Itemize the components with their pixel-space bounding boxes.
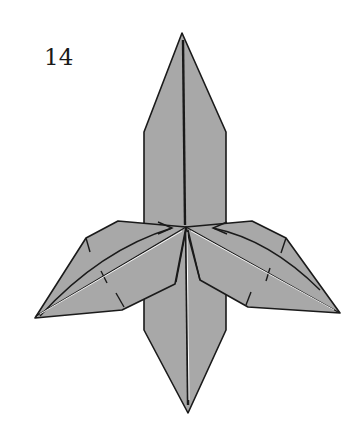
origami-diagram (0, 0, 361, 436)
